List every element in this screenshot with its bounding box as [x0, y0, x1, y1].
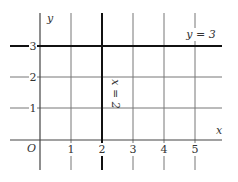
x-tick-5: 5 [192, 143, 199, 156]
y-axis-label: y [46, 12, 54, 25]
x-tick-4: 4 [161, 143, 168, 156]
label-y-equals-3: y = 3 [185, 28, 215, 41]
origin-label: O [27, 142, 36, 155]
label-x-equals-2: x = 2 [109, 79, 122, 108]
x-axis-label: x [216, 124, 223, 137]
y-tick-2: 2 [30, 71, 37, 84]
coordinate-diagram: 3 2 1 1 2 3 4 5 y x O y = 3 x = 2 [0, 0, 238, 182]
x-tick-3: 3 [130, 143, 137, 156]
x-tick-2: 2 [99, 143, 106, 156]
x-tick-1: 1 [68, 143, 75, 156]
y-tick-3: 3 [30, 40, 37, 53]
y-tick-1: 1 [30, 102, 37, 115]
